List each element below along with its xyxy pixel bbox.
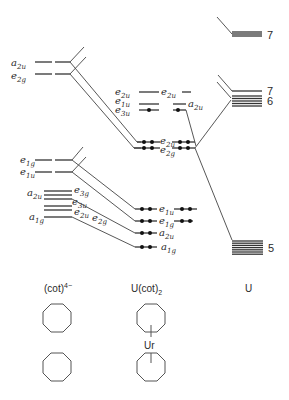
level-5f: [232, 241, 263, 254]
label-a2u-center: a2u: [159, 227, 174, 241]
label-a2u: a2u: [11, 57, 26, 71]
right-levels: 7 7 6 5: [232, 29, 274, 254]
level-7p: [232, 32, 262, 36]
right-connectors: [186, 17, 232, 240]
cot-ligand-structures: [43, 304, 71, 381]
label-a1g-center: a1g: [161, 241, 176, 255]
label-e2g: e2g: [11, 70, 26, 84]
label-a1g: a1g: [29, 211, 44, 225]
header-ucot2: U(cot)2: [131, 283, 162, 296]
mo-diagram: a2u e2g e1g e1u a2u a1g e3g e3u e2u e2g: [0, 0, 289, 400]
column-headers: (cot)4− U(cot)2 U: [44, 282, 252, 296]
uranocene-structure: Ur: [137, 304, 165, 381]
label-a2u-upper: a2u: [188, 98, 203, 112]
label-e1u: e1u: [20, 166, 35, 180]
left-labels: a2u e2g e1g e1u a2u a1g e3g e3u e2u e2g: [11, 57, 107, 226]
header-cot: (cot)4−: [44, 282, 72, 294]
level-6d: [232, 96, 262, 106]
label-6d: 6: [267, 95, 273, 107]
header-u: U: [245, 283, 252, 294]
cot-ring-icon: [43, 353, 71, 381]
label-7p: 7: [267, 29, 273, 41]
label-a2u-block: a2u: [27, 187, 42, 201]
metal-label: Ur: [144, 340, 155, 351]
label-5f: 5: [268, 242, 274, 254]
electron: [176, 108, 180, 112]
label-e2u-upper-right: e2u: [161, 86, 176, 100]
electron: [147, 108, 151, 112]
cot-ring-icon: [43, 304, 71, 332]
